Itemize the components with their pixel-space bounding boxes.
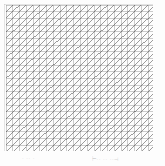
cell-diagonal <box>101 139 108 146</box>
cell-diagonal <box>26 12 33 19</box>
cell-diagonal <box>6 139 13 146</box>
cell-diagonal <box>148 105 153 112</box>
cell-diagonal <box>20 112 27 119</box>
cell-diagonal <box>128 132 135 139</box>
cell-diagonal <box>94 85 101 92</box>
cell-diagonal <box>108 18 115 25</box>
cell-diagonal <box>101 72 108 79</box>
cell-diagonal <box>20 25 27 32</box>
cell-diagonal <box>135 112 142 119</box>
cell-diagonal <box>128 32 135 39</box>
cell-diagonal <box>121 112 128 119</box>
cell-diagonal <box>141 145 148 151</box>
cell-diagonal <box>40 99 47 106</box>
cell-diagonal <box>108 85 115 92</box>
cell-diagonal <box>87 32 94 39</box>
cell-diagonal <box>53 38 60 45</box>
cell-diagonal <box>13 38 20 45</box>
cell-diagonal <box>135 12 142 19</box>
cell-diagonal <box>33 65 40 72</box>
cell-diagonal <box>94 132 101 139</box>
cell-diagonal <box>87 145 94 151</box>
cell-diagonal <box>60 25 67 32</box>
cell-diagonal <box>101 52 108 59</box>
cell-diagonal <box>80 119 87 126</box>
cell-diagonal <box>101 65 108 72</box>
cell-diagonal <box>33 99 40 106</box>
cell-diagonal <box>40 65 47 72</box>
cell-diagonal <box>101 105 108 112</box>
cell-diagonal <box>108 132 115 139</box>
cell-diagonal <box>26 5 33 12</box>
cell-diagonal <box>53 139 60 146</box>
cell-diagonal <box>141 58 148 65</box>
cell-diagonal <box>101 78 108 85</box>
cell-diagonal <box>108 12 115 19</box>
mesh-svg <box>4 4 153 151</box>
cell-diagonal <box>74 5 81 12</box>
cell-diagonal <box>20 72 27 79</box>
cell-diagonal <box>87 72 94 79</box>
cell-diagonal <box>6 119 13 126</box>
cell-diagonal <box>135 32 142 39</box>
cell-diagonal <box>114 85 121 92</box>
cell-diagonal <box>141 92 148 99</box>
cell-diagonal <box>94 72 101 79</box>
cell-diagonal <box>135 105 142 112</box>
cell-diagonal <box>47 5 54 12</box>
cell-diagonal <box>67 65 74 72</box>
cell-diagonal <box>135 92 142 99</box>
cell-diagonal <box>13 58 20 65</box>
cell-diagonal <box>53 45 60 52</box>
cell-diagonal <box>20 5 27 12</box>
cell-diagonal <box>121 12 128 19</box>
cell-diagonal <box>20 105 27 112</box>
cell-diagonal <box>87 125 94 132</box>
cell-diagonal <box>101 132 108 139</box>
cell-diagonal <box>87 52 94 59</box>
cell-diagonal <box>40 132 47 139</box>
cell-diagonal <box>13 105 20 112</box>
cell-diagonal <box>13 125 20 132</box>
cell-diagonal <box>114 12 121 19</box>
cell-diagonal <box>114 58 121 65</box>
cell-diagonal <box>94 18 101 25</box>
cell-diagonal <box>60 85 67 92</box>
cell-diagonal <box>108 58 115 65</box>
cell-diagonal <box>94 52 101 59</box>
cell-diagonal <box>108 52 115 59</box>
cell-diagonal <box>40 92 47 99</box>
cell-diagonal <box>26 65 33 72</box>
cell-diagonal <box>6 85 13 92</box>
cell-diagonal <box>60 65 67 72</box>
cell-diagonal <box>80 25 87 32</box>
cell-diagonal <box>33 38 40 45</box>
cell-diagonal <box>13 132 20 139</box>
cell-diagonal <box>53 72 60 79</box>
cell-diagonal <box>33 58 40 65</box>
cell-diagonal <box>33 85 40 92</box>
cell-diagonal <box>74 119 81 126</box>
cell-diagonal <box>141 125 148 132</box>
cell-diagonal <box>148 18 153 25</box>
cell-diagonal <box>121 32 128 39</box>
cell-diagonal <box>67 112 74 119</box>
cell-diagonal <box>135 52 142 59</box>
cell-diagonal <box>20 85 27 92</box>
cell-diagonal <box>53 132 60 139</box>
cell-diagonal <box>33 125 40 132</box>
cell-diagonal <box>47 32 54 39</box>
cell-diagonal <box>101 145 108 151</box>
cell-diagonal <box>101 99 108 106</box>
cell-diagonal <box>20 12 27 19</box>
cell-diagonal <box>121 119 128 126</box>
cell-diagonal <box>6 38 13 45</box>
cell-diagonal <box>128 45 135 52</box>
cell-diagonal <box>121 45 128 52</box>
cell-diagonal <box>101 119 108 126</box>
cell-diagonal <box>6 99 13 106</box>
cell-diagonal <box>108 45 115 52</box>
cell-diagonal <box>60 58 67 65</box>
cell-diagonal <box>80 58 87 65</box>
cell-diagonal <box>114 78 121 85</box>
